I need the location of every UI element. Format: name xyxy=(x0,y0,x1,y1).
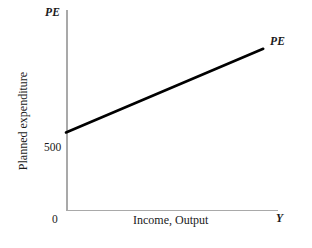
y-axis-title: Planned expenditure xyxy=(17,51,29,191)
y-axis-tick-label-500: 500 xyxy=(44,142,61,154)
plot-area xyxy=(0,0,312,248)
y-axis-top-label: PE xyxy=(45,7,60,19)
pe-line-label: PE xyxy=(270,36,285,48)
x-axis-title: Income, Output xyxy=(133,214,208,226)
chart-figure: PE PE 500 0 Y Income, Output Planned exp… xyxy=(0,0,312,248)
origin-label: 0 xyxy=(52,214,58,226)
x-axis-end-label: Y xyxy=(276,213,283,225)
planned-expenditure-line xyxy=(66,49,263,133)
